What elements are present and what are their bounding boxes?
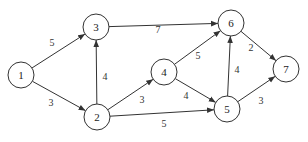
edge-weight: 4 xyxy=(235,64,240,75)
node-2: 2 xyxy=(84,104,110,130)
edge-6-7 xyxy=(241,31,276,60)
edge-weight: 3 xyxy=(49,97,54,108)
arrow-icon xyxy=(109,23,218,26)
edge-1-3 xyxy=(32,34,85,68)
edge-weight: 4 xyxy=(103,71,108,82)
node-5: 5 xyxy=(214,96,240,122)
edge-weight: 3 xyxy=(259,95,264,106)
edge-3-6 xyxy=(109,23,218,26)
node-label: 4 xyxy=(161,66,167,78)
node-1: 1 xyxy=(8,62,34,88)
edge-weight: 5 xyxy=(50,37,55,48)
node-label: 3 xyxy=(93,21,99,33)
arrow-icon xyxy=(96,40,97,104)
edge-4-5 xyxy=(175,79,216,103)
edge-5-7 xyxy=(238,76,275,101)
edge-5-6 xyxy=(228,36,231,96)
edge-weight: 2 xyxy=(249,42,254,53)
arrow-icon xyxy=(175,79,216,103)
edge-weight: 5 xyxy=(196,50,201,61)
graph-diagram: 53435754423 1234567 xyxy=(0,0,308,142)
arrow-icon xyxy=(228,36,231,96)
arrow-icon xyxy=(238,76,275,101)
arrow-icon xyxy=(241,31,276,60)
node-6: 6 xyxy=(218,10,244,36)
arrow-icon xyxy=(108,79,153,110)
node-label: 6 xyxy=(228,17,234,29)
edge-weight: 4 xyxy=(184,90,189,101)
node-label: 7 xyxy=(283,63,289,75)
edge-2-4 xyxy=(108,79,153,110)
node-label: 1 xyxy=(18,69,24,81)
node-label: 5 xyxy=(224,103,230,115)
edge-weight: 7 xyxy=(156,24,161,35)
edge-weight: 5 xyxy=(162,118,167,129)
edge-2-5 xyxy=(110,110,214,116)
arrow-icon xyxy=(32,81,85,110)
node-4: 4 xyxy=(151,59,177,85)
edge-1-2 xyxy=(32,81,85,110)
node-label: 2 xyxy=(94,111,100,123)
edge-weight: 3 xyxy=(140,94,145,105)
node-3: 3 xyxy=(83,14,109,40)
nodes: 1234567 xyxy=(8,10,299,130)
node-7: 7 xyxy=(273,56,299,82)
arrow-icon xyxy=(110,110,214,116)
arrow-icon xyxy=(32,34,85,68)
edge-2-3 xyxy=(96,40,97,104)
